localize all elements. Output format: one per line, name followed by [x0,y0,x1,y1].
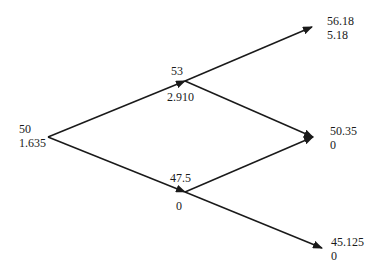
node-upup-value: 5.18 [327,28,354,42]
node-down-value: 0 [176,199,182,213]
node-updown: 50.35 0 [330,124,357,152]
node-up-value: 2.910 [167,90,194,104]
tree-diagram [0,0,380,276]
node-downdown-value: 0 [331,249,364,263]
edge-up-updown [185,81,313,137]
edge-down-downdown [185,192,322,248]
edge-up-upup [185,27,312,81]
node-downdown: 45.125 0 [331,235,364,263]
node-downdown-price: 45.125 [331,235,364,249]
node-upup: 56.18 5.18 [327,14,354,42]
node-root-value: 1.635 [19,136,46,150]
node-root-price: 50 [19,122,46,136]
edge-root-down [48,137,185,192]
node-up-price: 53 [171,64,183,78]
node-updown-price: 50.35 [330,124,357,138]
node-updown-value: 0 [330,138,357,152]
edge-root-up [48,81,185,137]
node-down-price: 47.5 [170,171,191,185]
edge-down-updown [185,137,313,192]
node-upup-price: 56.18 [327,14,354,28]
node-root: 50 1.635 [19,122,46,150]
